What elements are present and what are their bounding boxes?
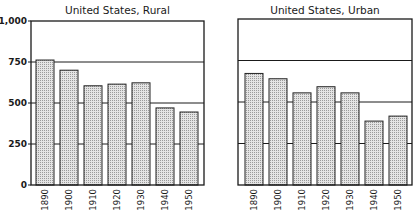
rural-chart-panel: United States, Rural18901900191019201930…: [0, 4, 204, 210]
x-tick-label: 1900: [273, 189, 283, 210]
x-tick-label: 1950: [393, 189, 403, 210]
x-tick-label: 1940: [369, 189, 379, 210]
rural-bar-1890: [36, 60, 54, 185]
rural-bar-1920: [108, 84, 126, 185]
urban-bar-1940: [365, 121, 383, 185]
x-tick-label: 1910: [88, 189, 98, 210]
x-tick-label: 1940: [160, 189, 170, 210]
urban-chart-title: United States, Urban: [270, 4, 380, 16]
x-tick-label: 1930: [136, 189, 146, 210]
x-tick-label: 1930: [345, 189, 355, 210]
x-tick-label: 1900: [64, 189, 74, 210]
x-tick-label: 1950: [184, 189, 194, 210]
urban-bar-1930: [341, 93, 359, 185]
y-tick-label: 750: [8, 57, 27, 67]
urban-bar-1910: [293, 93, 311, 185]
chart-figure: United States, Rural18901900191019201930…: [0, 0, 419, 210]
rural-bar-1950: [180, 112, 198, 185]
rural-bar-1900: [60, 70, 78, 185]
urban-bar-1890: [245, 73, 263, 185]
x-tick-label: 1890: [40, 189, 50, 210]
urban-bar-1920: [317, 87, 335, 185]
y-tick-label: 250: [8, 139, 27, 149]
x-tick-label: 1910: [297, 189, 307, 210]
rural-bar-1910: [84, 86, 102, 185]
x-tick-label: 1920: [112, 189, 122, 210]
rural-bar-1940: [156, 108, 174, 185]
urban-chart-panel: United States, Urban18901900191019201930…: [238, 4, 412, 210]
x-tick-label: 1920: [321, 189, 331, 210]
urban-bar-1900: [269, 79, 287, 185]
urban-bar-1950: [389, 116, 407, 185]
rural-bar-1930: [132, 83, 150, 185]
y-tick-label: 0: [21, 180, 27, 190]
y-tick-label: 500: [8, 98, 27, 108]
y-tick-label: 1,000: [0, 16, 27, 26]
rural-chart-title: United States, Rural: [65, 4, 170, 16]
x-tick-label: 1890: [249, 189, 259, 210]
